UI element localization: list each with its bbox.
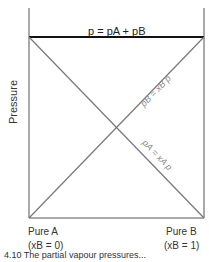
figure-caption: 4.10 The partial vapour pressures... — [4, 250, 146, 260]
y-axis-label: Pressure — [7, 77, 19, 127]
pure-A-label: Pure A — [28, 226, 58, 237]
total-pressure-label: p = pA + pB — [88, 25, 146, 37]
pure-B-label: Pure B — [166, 226, 197, 237]
pure-B-composition: (xB = 1) — [164, 240, 199, 251]
raoult-diagram — [0, 0, 209, 262]
